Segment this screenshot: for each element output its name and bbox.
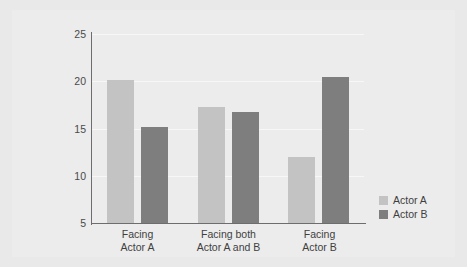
x-label-1: Facing both Actor A and B bbox=[183, 228, 274, 254]
plot-area bbox=[92, 34, 364, 223]
legend-item-actor-b: Actor B bbox=[379, 207, 427, 221]
figure-frame: Ratings of actors' causal role 25 20 15 … bbox=[0, 0, 467, 267]
y-tick-25: 25 bbox=[60, 29, 86, 39]
x-axis-line bbox=[91, 223, 366, 224]
x-axis-labels: Facing Actor A Facing both Actor A and B… bbox=[92, 228, 364, 260]
legend-label-actor-b: Actor B bbox=[393, 209, 427, 220]
legend: Actor A Actor B bbox=[379, 193, 427, 221]
y-tick-10: 10 bbox=[60, 171, 86, 181]
legend-swatch-icon-actor-b bbox=[379, 210, 388, 219]
y-tick-5: 5 bbox=[60, 218, 86, 228]
bar-actor-a-group-1[interactable] bbox=[198, 107, 225, 223]
chart-panel: Ratings of actors' causal role 25 20 15 … bbox=[12, 10, 455, 257]
bar-actor-b-group-2[interactable] bbox=[322, 77, 349, 223]
x-label-0: Facing Actor A bbox=[92, 228, 183, 254]
y-axis-ticks: 25 20 15 10 5 bbox=[60, 34, 86, 223]
y-tick-15: 15 bbox=[60, 124, 86, 134]
x-label-2: Facing Actor B bbox=[274, 228, 365, 254]
bar-actor-a-group-2[interactable] bbox=[288, 157, 315, 223]
bar-actor-a-group-0[interactable] bbox=[107, 80, 134, 223]
bar-actor-b-group-1[interactable] bbox=[232, 112, 259, 223]
legend-item-actor-a: Actor A bbox=[379, 193, 427, 207]
y-tick-20: 20 bbox=[60, 76, 86, 86]
bar-actor-b-group-0[interactable] bbox=[141, 127, 168, 223]
legend-swatch-icon-actor-a bbox=[379, 196, 388, 205]
legend-label-actor-a: Actor A bbox=[393, 195, 427, 206]
